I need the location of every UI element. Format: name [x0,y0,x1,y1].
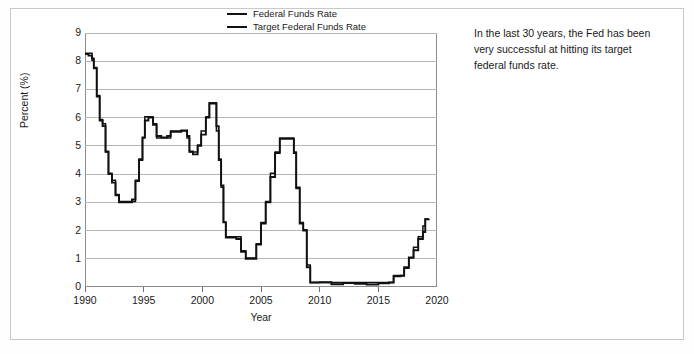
x-axis-ticks: 1990199520002005201020152020 [85,292,437,308]
y-tick-label-4: 4 [57,168,81,179]
legend-item-target-federal-funds-rate: Target Federal Funds Rate [227,20,366,33]
y-tick-label-1: 1 [57,253,81,264]
x-tick-label-2005: 2005 [238,294,284,306]
y-axis-ticks: 0123456789 [53,33,81,287]
x-tick-label-1990: 1990 [62,294,108,306]
y-tick-label-2: 2 [57,225,81,236]
y-tick-label-3: 3 [57,196,81,207]
y-axis-label: Percent (%) [18,73,30,128]
x-tick-marks [85,287,437,292]
plot-area [85,33,437,287]
legend-label-target-federal-funds-rate: Target Federal Funds Rate [253,21,366,32]
y-tick-label-0: 0 [57,281,81,292]
annotation-text: In the last 30 years, the Fed has been v… [474,25,664,73]
legend-label-federal-funds-rate: Federal Funds Rate [253,8,337,19]
x-tick-label-2015: 2015 [355,294,401,306]
data-series-layer [85,33,437,287]
x-tick-label-2010: 2010 [297,294,343,306]
x-axis-label: Year [85,311,437,323]
y-tick-label-8: 8 [57,55,81,66]
y-tick-label-6: 6 [57,112,81,123]
y-tick-label-5: 5 [57,140,81,151]
x-tick-label-2020: 2020 [414,294,460,306]
y-tick-label-9: 9 [57,27,81,38]
legend-swatch-target-federal-funds-rate [227,26,247,28]
x-tick-label-2000: 2000 [179,294,225,306]
series-line-target-federal-funds-rate [85,53,429,282]
chart-legend: Federal Funds Rate Target Federal Funds … [225,5,370,35]
figure-root: Percent (%) 0123456789 19901995200020052… [0,0,694,354]
legend-item-federal-funds-rate: Federal Funds Rate [227,7,366,20]
y-tick-label-7: 7 [57,83,81,94]
legend-swatch-federal-funds-rate [227,13,247,15]
x-tick-label-1995: 1995 [121,294,167,306]
